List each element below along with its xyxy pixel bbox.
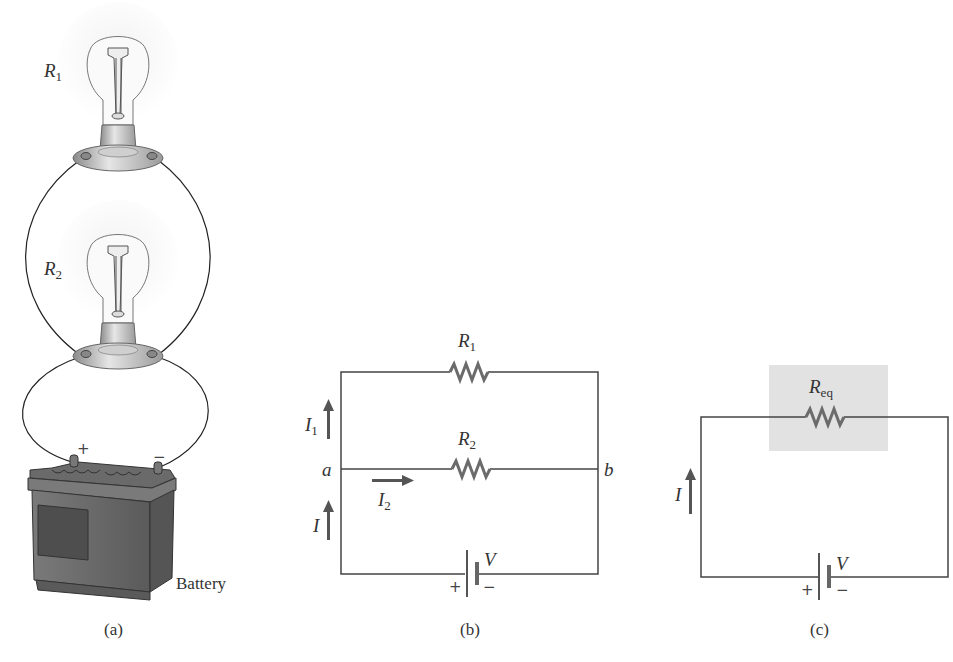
arrow-i-c-icon [685,468,696,514]
minus-label-c: − [836,581,849,599]
caption-c: (c) [810,620,829,640]
panel-c-schematic [0,0,953,662]
plus-label-c: + [801,581,814,599]
battery-c-short-plate-icon [827,565,831,588]
req-label: Req [809,376,833,401]
voltage-label-c: V [836,553,848,575]
i-label-c: I [675,484,681,506]
